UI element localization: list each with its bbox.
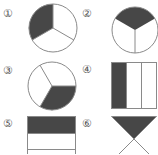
figure-3-circle <box>28 62 76 110</box>
figure-6-crossed-square <box>112 117 157 155</box>
figure-2-circle <box>112 7 158 53</box>
figure-1-circle <box>29 4 77 52</box>
figure-5-rectangle <box>28 117 76 155</box>
figure-4-rectangle <box>112 63 157 109</box>
figures-canvas <box>0 0 158 154</box>
